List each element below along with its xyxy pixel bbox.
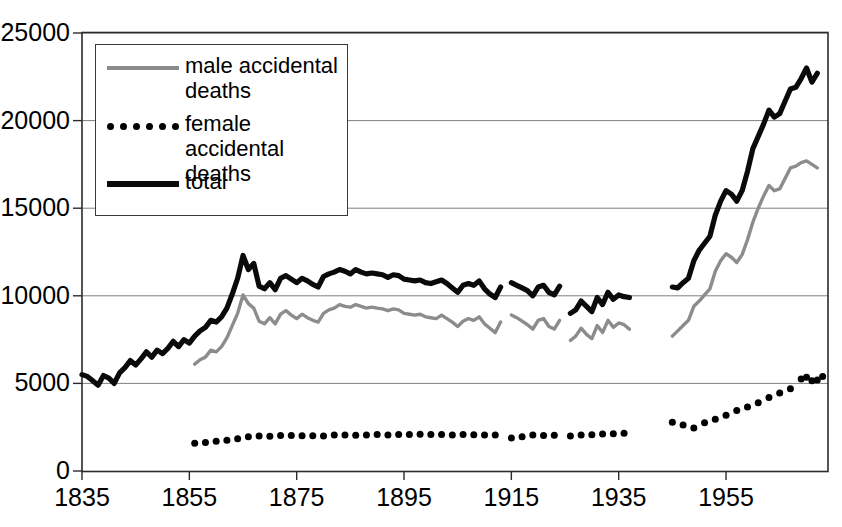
data-point xyxy=(245,433,252,440)
x-tick-label: 1835 xyxy=(37,485,127,510)
data-point xyxy=(277,432,284,439)
series-path xyxy=(570,320,629,340)
data-point xyxy=(288,432,295,439)
data-point xyxy=(599,431,606,438)
data-point xyxy=(438,431,445,438)
y-tick-label: 25000 xyxy=(0,20,70,45)
data-point xyxy=(213,438,220,445)
series-path xyxy=(511,283,559,296)
data-point xyxy=(551,432,558,439)
legend-dot xyxy=(146,123,153,130)
data-point xyxy=(352,432,359,439)
y-tick-label: 15000 xyxy=(0,195,70,220)
legend-dot xyxy=(120,123,127,130)
data-point xyxy=(787,385,794,392)
data-point xyxy=(331,431,338,438)
legend-item-total: total xyxy=(96,169,347,195)
data-point xyxy=(588,431,595,438)
data-point xyxy=(481,431,488,438)
data-point xyxy=(690,425,697,432)
legend-dot xyxy=(159,123,166,130)
data-point xyxy=(363,431,370,438)
data-point xyxy=(567,432,574,439)
data-point xyxy=(680,422,687,429)
y-tick-label: 10000 xyxy=(0,283,70,308)
data-point xyxy=(610,430,617,437)
series-female-accidental-deaths xyxy=(191,373,826,447)
y-tick-label: 20000 xyxy=(0,108,70,133)
data-point xyxy=(256,432,263,439)
y-tick-label: 0 xyxy=(0,458,70,483)
legend-swatch-total-line xyxy=(105,173,183,195)
x-tick-label: 1955 xyxy=(681,485,771,510)
data-point xyxy=(395,431,402,438)
data-point xyxy=(449,431,456,438)
data-point xyxy=(299,432,306,439)
y-tick-label: 5000 xyxy=(0,370,70,395)
series-path xyxy=(672,68,817,288)
data-point xyxy=(309,432,316,439)
data-point xyxy=(191,440,198,447)
data-point xyxy=(406,431,413,438)
data-point xyxy=(712,416,719,423)
series-path xyxy=(82,256,501,386)
data-point xyxy=(723,412,730,419)
legend-dot xyxy=(107,123,114,130)
x-tick-label: 1895 xyxy=(359,485,449,510)
data-point xyxy=(341,432,348,439)
data-point xyxy=(470,431,477,438)
data-point xyxy=(765,394,772,401)
data-point xyxy=(460,431,467,438)
data-point xyxy=(519,433,526,440)
data-point xyxy=(508,435,515,442)
data-point xyxy=(384,431,391,438)
x-tick-label: 1855 xyxy=(144,485,234,510)
legend-item-male: male accidental deaths xyxy=(96,53,347,103)
data-point xyxy=(427,431,434,438)
data-point xyxy=(578,432,585,439)
data-point xyxy=(744,404,751,411)
series-path xyxy=(195,295,501,364)
data-point xyxy=(529,432,536,439)
legend-dot xyxy=(133,123,140,130)
x-tick-label: 1915 xyxy=(466,485,556,510)
accidental-deaths-chart: 0500010000150002000025000 18351855187518… xyxy=(0,0,842,527)
data-point xyxy=(202,439,209,446)
data-point xyxy=(320,432,327,439)
data-point xyxy=(755,399,762,406)
data-point xyxy=(223,437,230,444)
data-point xyxy=(374,431,381,438)
data-point xyxy=(266,433,273,440)
legend-swatch-female-dots xyxy=(105,115,183,137)
data-point xyxy=(669,419,676,426)
data-point xyxy=(417,431,424,438)
legend-label-male: male accidental deaths xyxy=(183,53,338,103)
data-point xyxy=(819,373,826,380)
data-point xyxy=(733,407,740,414)
data-point xyxy=(621,430,628,437)
chart-legend: male accidental deaths female accidental… xyxy=(95,44,348,216)
data-point xyxy=(540,432,547,439)
data-point xyxy=(492,432,499,439)
data-point xyxy=(701,419,708,426)
legend-dot xyxy=(172,123,179,130)
data-point xyxy=(776,390,783,397)
data-point xyxy=(234,435,241,442)
legend-swatch-male-line xyxy=(105,57,183,79)
x-tick-label: 1935 xyxy=(574,485,664,510)
series-path xyxy=(511,315,559,329)
x-tick-label: 1875 xyxy=(252,485,342,510)
legend-label-total: total xyxy=(183,169,227,194)
